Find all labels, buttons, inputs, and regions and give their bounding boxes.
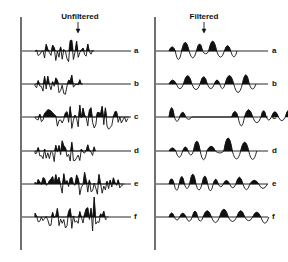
trace-label-b-filtered: b [272, 79, 277, 88]
trace-label-d-unfiltered: d [134, 146, 139, 155]
trace-label-f-unfiltered: f [134, 212, 137, 221]
waveform-figure: Unfiltered Filtered a b c d e f a b c d … [0, 0, 288, 262]
trace-label-e-unfiltered: e [134, 179, 138, 188]
trace-label-a-filtered: a [272, 46, 276, 55]
waveform-plot [0, 0, 288, 262]
unfiltered-title: Unfiltered [61, 12, 98, 21]
trace-label-c-filtered: c [272, 112, 276, 121]
trace-label-f-filtered: f [272, 212, 275, 221]
trace-label-d-filtered: d [272, 146, 277, 155]
trace-label-a-unfiltered: a [134, 46, 138, 55]
trace-label-b-unfiltered: b [134, 79, 139, 88]
trace-label-c-unfiltered: c [134, 112, 138, 121]
trace-label-e-filtered: e [272, 179, 276, 188]
filtered-title: Filtered [190, 12, 219, 21]
